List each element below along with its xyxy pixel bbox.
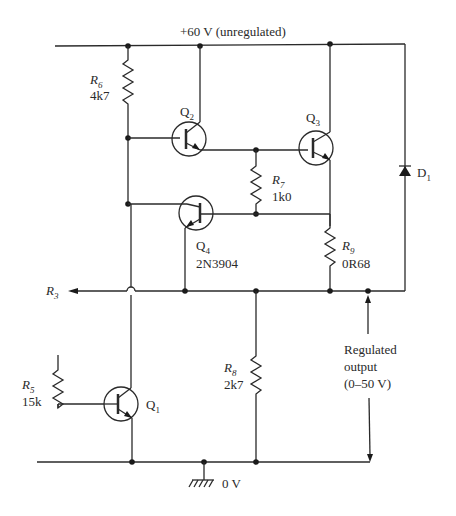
ground-icon [189,480,213,487]
transistor-q3: Q3 [299,44,333,226]
r3-label: R3 [45,283,59,301]
q1-label: Q1 [146,397,160,415]
resistor-r7: R7 1k0 [251,150,292,217]
transistor-q1: Q1 [104,387,160,462]
diode-d1: D1 [399,44,431,291]
r5-value: 15k [22,394,42,409]
ground-rail [37,459,370,480]
output-label-line1: Regulated [344,342,397,357]
transistor-q2: Q2 [128,46,206,156]
output-label-line3: (0–50 V) [344,376,391,391]
q4-part-number: 2N3904 [196,256,238,271]
r9-label: R9 [341,238,355,256]
q2-label: Q2 [180,104,194,122]
output-indicator: Regulated output (0–50 V) [344,295,397,462]
transistor-q4: Q4 2N3904 [128,196,330,291]
r8-label: R8 [223,360,237,378]
r7-label: R7 [271,172,285,190]
r8-value: 2k7 [224,377,244,392]
q4-label: Q4 [196,238,210,256]
resistor-r6: R6 4k7 [89,46,133,207]
resistor-r8: R8 2k7 [223,291,261,462]
r9-value: 0R68 [342,256,370,271]
supply-rail [55,41,405,49]
ground-label: 0 V [222,476,242,491]
r7-value: 1k0 [272,189,292,204]
q3-label: Q3 [306,110,320,128]
output-rail: R3 [45,283,405,301]
supply-rail-label: +60 V (unregulated) [180,24,286,39]
output-label-line2: output [344,359,378,374]
resistor-r5: R5 15k [21,355,104,409]
r6-value: 4k7 [90,88,110,103]
circuit-schematic: +60 V (unregulated) R6 4k7 Q2 Q3 [0,0,456,516]
r5-label: R5 [21,377,35,395]
resistor-r9: R9 0R68 [325,214,370,291]
d1-label: D1 [417,165,431,183]
